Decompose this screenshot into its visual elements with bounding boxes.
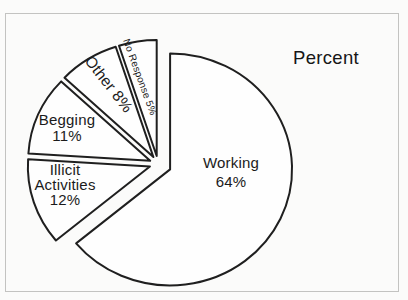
chart-title: Percent [293, 47, 359, 69]
page: { "page": { "background": "#fbfbfa", "fr… [0, 0, 408, 300]
pie-chart: Working64%IllicitActivities12%Begging11%… [0, 0, 408, 300]
